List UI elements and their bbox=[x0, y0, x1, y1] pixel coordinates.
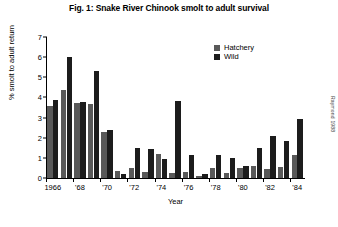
bar bbox=[129, 168, 134, 178]
bar bbox=[61, 90, 66, 178]
bar bbox=[148, 149, 153, 178]
bar bbox=[196, 176, 201, 178]
bar bbox=[292, 155, 297, 178]
x-tick-mark bbox=[127, 178, 128, 182]
bar bbox=[237, 168, 242, 178]
y-axis-label: % smolt to adult return bbox=[7, 0, 16, 128]
bar bbox=[53, 100, 58, 178]
bar bbox=[107, 130, 112, 178]
y-tick-mark bbox=[43, 57, 47, 58]
bar bbox=[156, 154, 161, 178]
bar bbox=[216, 155, 221, 178]
x-tick-label: '68 bbox=[75, 183, 85, 192]
bar bbox=[257, 148, 262, 178]
x-tick-mark bbox=[100, 178, 101, 182]
x-tick-label: '80 bbox=[238, 183, 248, 192]
bar bbox=[189, 155, 194, 178]
legend-item-wild: Wild bbox=[214, 52, 254, 61]
bar bbox=[251, 166, 256, 178]
legend-item-hatchery: Hatchery bbox=[214, 43, 254, 52]
legend-label-wild: Wild bbox=[224, 52, 239, 61]
x-axis-line bbox=[46, 178, 305, 179]
x-tick-mark bbox=[155, 178, 156, 182]
bar bbox=[67, 57, 72, 178]
x-tick-mark bbox=[46, 178, 47, 182]
bar bbox=[142, 172, 147, 178]
x-tick-label: '76 bbox=[184, 183, 194, 192]
y-tick-mark bbox=[43, 97, 47, 98]
legend: Hatchery Wild bbox=[214, 43, 254, 61]
x-tick-label: '84 bbox=[292, 183, 302, 192]
bar bbox=[101, 132, 106, 178]
bar bbox=[74, 103, 79, 178]
bar bbox=[230, 158, 235, 178]
x-tick-mark bbox=[236, 178, 237, 182]
legend-swatch-wild bbox=[214, 54, 220, 60]
bar bbox=[80, 102, 85, 178]
x-tick-label: '74 bbox=[157, 183, 167, 192]
bar bbox=[278, 167, 283, 178]
bar bbox=[224, 173, 229, 178]
x-tick-mark bbox=[263, 178, 264, 182]
x-tick-mark bbox=[73, 178, 74, 182]
bar bbox=[88, 104, 93, 178]
bar bbox=[243, 166, 248, 178]
bar bbox=[284, 141, 289, 178]
y-tick-mark bbox=[43, 37, 47, 38]
bar bbox=[115, 171, 120, 178]
bar bbox=[264, 169, 269, 178]
figure-root: Fig. 1: Snake River Chinook smolt to adu… bbox=[0, 0, 338, 227]
bar bbox=[210, 168, 215, 178]
figure-credit: Raymond 1988 bbox=[330, 96, 336, 132]
bar bbox=[135, 148, 140, 178]
bar bbox=[183, 172, 188, 178]
x-tick-label: '70 bbox=[102, 183, 112, 192]
y-tick-mark bbox=[43, 77, 47, 78]
bar bbox=[169, 173, 174, 178]
bar bbox=[162, 159, 167, 178]
bar bbox=[121, 174, 126, 178]
x-tick-label: 1966 bbox=[44, 183, 61, 192]
bar bbox=[202, 174, 207, 178]
figure-title: Fig. 1: Snake River Chinook smolt to adu… bbox=[0, 3, 338, 13]
bar bbox=[175, 101, 180, 178]
x-tick-label: '72 bbox=[129, 183, 139, 192]
x-axis-label: Year bbox=[46, 197, 305, 206]
legend-swatch-hatchery bbox=[214, 45, 220, 51]
bar bbox=[94, 71, 99, 178]
plot-area: 012345671966'68'70'72'74'76'78'80'82'84 bbox=[46, 37, 304, 178]
x-tick-mark bbox=[290, 178, 291, 182]
x-tick-mark bbox=[182, 178, 183, 182]
bar bbox=[270, 136, 275, 178]
x-tick-mark bbox=[209, 178, 210, 182]
legend-label-hatchery: Hatchery bbox=[224, 43, 254, 52]
bar bbox=[47, 106, 52, 179]
x-tick-label: '82 bbox=[265, 183, 275, 192]
x-tick-label: '78 bbox=[211, 183, 221, 192]
bar bbox=[297, 119, 302, 178]
